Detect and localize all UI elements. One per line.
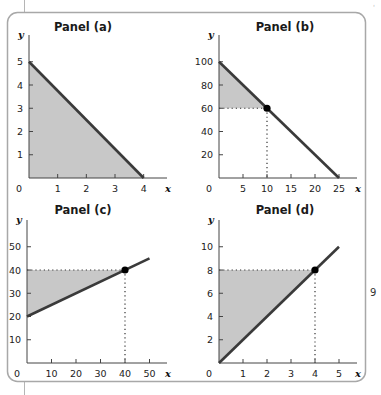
x-tick-label: 20 [70, 368, 82, 379]
y-axis-label: y [207, 29, 215, 40]
four-panel-figure: 9 ' 1234123450xyPanel (a)510152025204060… [0, 0, 381, 395]
y-tick-label: 10 [201, 241, 213, 252]
y-tick-label: 80 [201, 80, 213, 91]
x-tick-label: 1 [55, 183, 61, 194]
y-tick-label: 2 [17, 126, 23, 137]
x-axis-label: x [354, 368, 362, 379]
y-tick-label: 10 [9, 334, 21, 345]
panel-d: 123452468100xyPanel (d) [201, 203, 362, 379]
x-tick-label: 15 [285, 183, 297, 194]
y-tick-label: 20 [9, 311, 21, 322]
panel-b: 510152025204060801000xyPanel (b) [195, 20, 362, 194]
x-axis-label: x [354, 183, 362, 194]
panel-title: Panel (b) [256, 20, 315, 34]
x-tick-label: 4 [141, 183, 147, 194]
y-tick-label: 50 [9, 241, 21, 252]
x-tick-label: 2 [83, 183, 89, 194]
x-tick-label: 10 [261, 183, 273, 194]
margin-glyph-top: ' [373, 4, 375, 12]
y-tick-label: 4 [207, 311, 213, 322]
x-tick-label: 2 [264, 368, 270, 379]
highlight-point [121, 266, 128, 273]
x-tick-label: 5 [240, 183, 246, 194]
panel-title: Panel (c) [54, 203, 111, 217]
origin-label: 0 [14, 368, 20, 379]
data-line [219, 62, 339, 178]
y-tick-label: 40 [201, 126, 213, 137]
x-tick-label: 4 [312, 368, 318, 379]
margin-glyph: 9 [370, 287, 376, 298]
x-tick-label: 20 [309, 183, 321, 194]
y-tick-label: 60 [201, 103, 213, 114]
x-tick-label: 30 [94, 368, 106, 379]
y-tick-label: 30 [9, 288, 21, 299]
x-tick-label: 10 [45, 368, 57, 379]
x-tick-label: 3 [112, 183, 118, 194]
y-tick-label: 40 [9, 265, 21, 276]
x-tick-label: 50 [143, 368, 155, 379]
y-tick-label: 5 [17, 56, 23, 67]
panel-a: 1234123450xyPanel (a) [16, 20, 172, 194]
highlight-point [311, 266, 318, 273]
figure-frame [8, 13, 366, 382]
panel-title: Panel (d) [256, 203, 315, 217]
x-tick-label: 40 [119, 368, 131, 379]
y-tick-label: 3 [17, 103, 23, 114]
highlight-point [263, 105, 270, 112]
x-axis-label: x [164, 183, 172, 194]
y-axis-label: y [17, 29, 25, 40]
origin-label: 0 [206, 183, 212, 194]
y-tick-label: 8 [207, 265, 213, 276]
x-tick-label: 25 [333, 183, 345, 194]
origin-label: 0 [206, 368, 212, 379]
y-axis-label: y [15, 214, 23, 225]
y-axis-label: y [207, 214, 215, 225]
y-tick-label: 20 [201, 149, 213, 160]
y-tick-label: 4 [17, 80, 23, 91]
x-tick-label: 1 [240, 368, 246, 379]
y-tick-label: 2 [207, 334, 213, 345]
y-tick-label: 6 [207, 288, 213, 299]
panel-title: Panel (a) [54, 20, 112, 34]
x-tick-label: 3 [288, 368, 294, 379]
x-tick-label: 5 [336, 368, 342, 379]
x-axis-label: x [164, 368, 172, 379]
y-tick-label: 100 [195, 56, 213, 67]
origin-label: 0 [16, 183, 22, 194]
y-tick-label: 1 [17, 149, 23, 160]
panel-c: 102030405010203040500xyPanel (c) [9, 203, 172, 379]
